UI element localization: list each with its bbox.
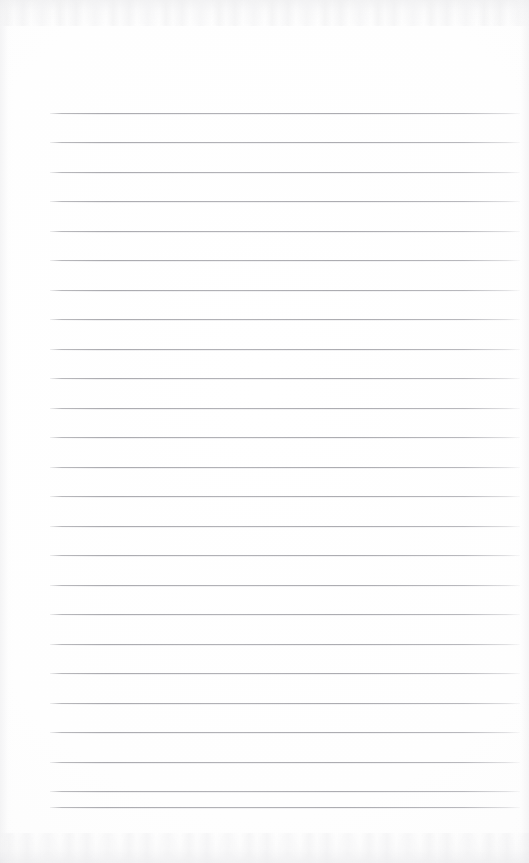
rule-line [50, 290, 520, 291]
rule-line [50, 644, 520, 645]
rule-line [50, 201, 520, 202]
rule-line [50, 172, 520, 173]
rule-line [50, 555, 520, 556]
rule-line [50, 378, 520, 379]
rule-line [50, 732, 520, 733]
rule-line [50, 142, 520, 143]
rule-line [50, 762, 520, 763]
rule-line [50, 585, 520, 586]
scanned-page [0, 0, 529, 863]
rule-line [50, 703, 520, 704]
rule-line [50, 260, 520, 261]
rule-line [50, 408, 520, 409]
rule-line [50, 526, 520, 527]
rule-line [50, 673, 520, 674]
ruled-lines-layer [0, 0, 529, 863]
scan-noise-bottom-edge [0, 833, 529, 863]
rule-line [50, 791, 520, 792]
rule-line [50, 113, 520, 114]
rule-line [50, 437, 520, 438]
rule-line [50, 807, 520, 808]
rule-line [50, 319, 520, 320]
rule-line [50, 614, 520, 615]
rule-line [50, 496, 520, 497]
rule-line [50, 349, 520, 350]
rule-line [50, 467, 520, 468]
rule-line [50, 231, 520, 232]
